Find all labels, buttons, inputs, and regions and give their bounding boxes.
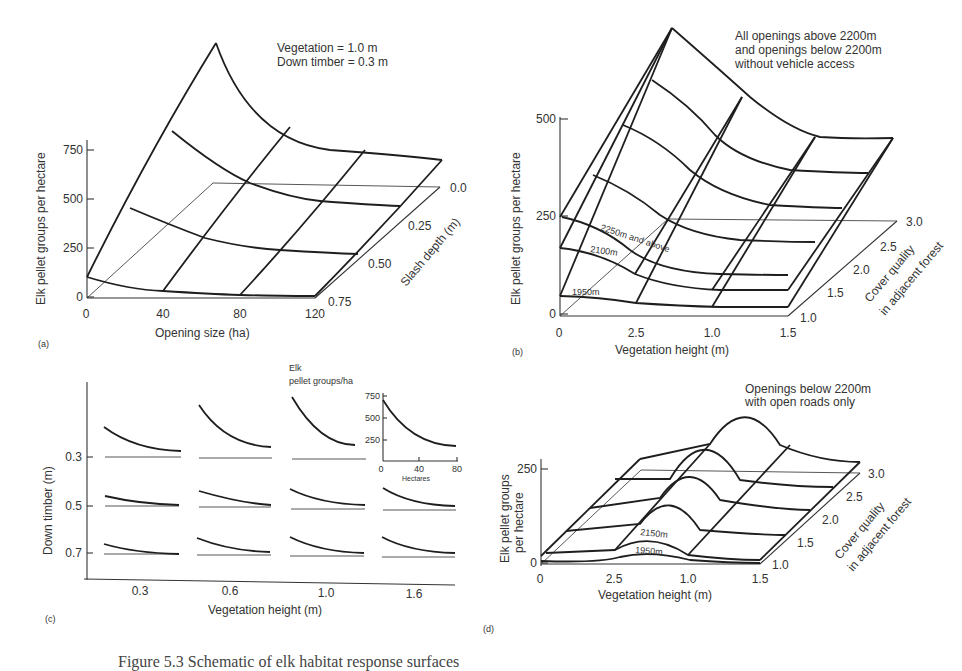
svg-text:1.0: 1.0 [772,558,789,572]
panel-b-z-ticks: 3.0 2.5 2.0 1.5 1.0 [800,215,923,325]
svg-text:750: 750 [63,143,83,157]
svg-text:0.25: 0.25 [408,219,432,233]
svg-text:0.0: 0.0 [450,181,467,195]
svg-text:2.5: 2.5 [846,490,863,504]
svg-text:0.5: 0.5 [65,499,82,513]
svg-text:0.3: 0.3 [132,584,149,598]
svg-text:2.5: 2.5 [880,240,897,254]
panel-c-y-label: Down timber (m) [41,466,55,555]
svg-text:750: 750 [365,391,380,401]
svg-text:40: 40 [156,307,170,321]
panel-b-curve-1950m [560,296,788,307]
svg-text:0: 0 [549,307,556,321]
panel-b-x-ticks: 0 2.5 1.0 1.5 [556,326,797,340]
panel-a-z-axis [315,187,440,298]
panel-d-x-ticks: 0 2.5 1.0 1.5 [537,572,769,586]
svg-text:500: 500 [365,413,380,423]
svg-text:500: 500 [63,192,83,206]
panel-c-inset-x-label: Hectares [402,475,431,482]
panel-d: Openings below 2200m with open roads onl… [483,382,914,634]
svg-text:250: 250 [536,209,556,223]
svg-text:1.5: 1.5 [780,326,797,340]
svg-text:120: 120 [305,307,325,321]
svg-text:1.0: 1.0 [680,572,697,586]
svg-text:3.0: 3.0 [906,215,923,229]
panel-a-z-ticks: 0.0 0.25 0.50 0.75 [328,181,467,309]
panel-d-note-line2: with open roads only [744,395,855,409]
svg-text:80: 80 [233,307,247,321]
panel-c-x-ticks: 0.3 0.6 1.0 1.6 [132,584,423,601]
svg-text:2.0: 2.0 [853,263,870,277]
svg-text:40: 40 [414,464,424,474]
panel-a-curve-x0 [87,43,216,277]
panel-b-tag: (b) [512,347,523,357]
panel-b-note-line3: without vehicle access [734,57,854,71]
panel-c-inset-title-1: Elk [289,363,302,373]
panel-c-inset-title-2: pellet groups/ha [289,376,353,386]
panel-a-curve-slash-050 [130,208,358,254]
panel-d-tag: (d) [483,624,494,634]
panel-b: All openings above 2200m and openings be… [509,28,946,357]
panel-b-y-label: Elk pellet groups per hectare [509,152,523,305]
svg-text:1.0: 1.0 [800,311,817,325]
svg-text:0.3: 0.3 [65,450,82,464]
svg-text:250: 250 [63,241,83,255]
panel-b-note-line2: and openings below 2200m [735,43,882,57]
svg-text:0.6: 0.6 [222,584,239,598]
svg-text:0: 0 [530,556,537,570]
figure-caption: Figure 5.3 Schematic of elk habitat resp… [118,653,459,671]
svg-text:0: 0 [83,307,90,321]
svg-text:2.0: 2.0 [822,513,839,527]
svg-text:0: 0 [556,326,563,340]
svg-text:80: 80 [452,464,462,474]
svg-text:500: 500 [536,112,556,126]
panel-d-y-label-2: per hectare [512,492,526,553]
panel-c-tag: (c) [45,614,56,624]
panel-a-tag: (a) [38,339,49,349]
panel-c-baselines [104,457,456,557]
panel-c-x-label: Vegetation height (m) [208,603,322,617]
panel-a-y-label: Elk pellet groups per hectare [34,152,48,305]
svg-text:0: 0 [378,464,383,474]
svg-text:0.7: 0.7 [65,546,82,560]
svg-text:1.6: 1.6 [406,587,423,601]
svg-text:1.0: 1.0 [318,586,335,600]
panel-a-y-ticks: 750 500 250 0 [63,143,94,304]
panel-d-annot-1950m: 1950m [635,545,663,557]
panel-c-y-ticks: 0.3 0.5 0.7 [65,450,93,560]
panel-a-note-down-timber: Down timber = 0.3 m [277,55,388,69]
svg-text:250: 250 [365,435,380,445]
panel-b-note-line1: All openings above 2200m [735,29,876,43]
panel-a-note-vegetation: Vegetation = 1.0 m [277,41,377,55]
panel-d-annot-2150m: 2150m [640,527,668,540]
svg-text:250: 250 [517,462,537,476]
panel-b-annot-1950m: 1950m [572,287,600,297]
panel-b-z-axis [788,221,897,316]
svg-text:2.5: 2.5 [606,572,623,586]
svg-text:1.0: 1.0 [704,326,721,340]
svg-text:0.50: 0.50 [368,257,392,271]
panel-c: 0.3 0.5 0.7 0.3 0.6 1.0 1.6 [41,363,462,624]
panel-d-x-label: Vegetation height (m) [598,588,712,602]
svg-text:2.5: 2.5 [628,326,645,340]
svg-text:1.5: 1.5 [827,286,844,300]
panel-b-x-label: Vegetation height (m) [615,343,729,357]
panel-c-inset: Elk pellet groups/ha 750 500 250 0 40 80… [289,363,462,482]
svg-text:1.5: 1.5 [797,536,814,550]
panel-a-curve-slash-075 [87,277,315,296]
svg-text:0: 0 [537,572,544,586]
svg-text:0: 0 [76,290,83,304]
panel-a-curve-slash-025 [172,131,400,206]
panel-d-y-label-1: Elk pellet groups [498,474,512,563]
panel-a-curve-x40 [163,127,290,291]
svg-text:1.5: 1.5 [752,572,769,586]
svg-text:0.75: 0.75 [328,295,352,309]
panel-d-note-line1: Openings below 2200m [745,382,871,396]
panel-a: Vegetation = 1.0 m Down timber = 0.3 m 7… [34,41,467,349]
panel-a-x-ticks: 0 40 80 120 [83,307,326,321]
panel-a-x-label: Opening size (ha) [155,326,250,340]
svg-text:3.0: 3.0 [868,467,885,481]
panel-a-curve-x80 [240,150,365,295]
